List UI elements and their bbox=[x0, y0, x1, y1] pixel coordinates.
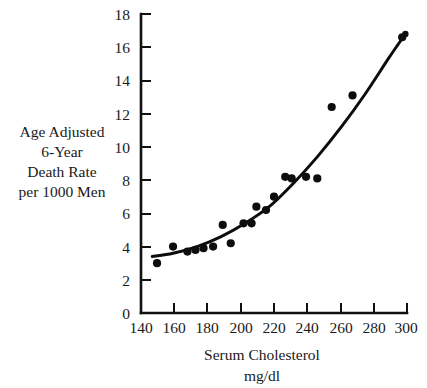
y-axis-label-line-4: per 1000 Men bbox=[19, 183, 106, 200]
y-axis-label-line-3: Death Rate bbox=[27, 163, 96, 180]
x-tick-labels: 140 160 180 200 220 240 260 280 300 bbox=[129, 319, 418, 336]
x-axis-units-text: mg/dl bbox=[244, 367, 280, 384]
x-tick-label-260: 260 bbox=[329, 319, 353, 336]
x-tick-label-160: 160 bbox=[162, 319, 186, 336]
x-tick-label-240: 240 bbox=[295, 319, 319, 336]
y-tick-labels: 0 2 4 6 8 10 12 14 16 18 bbox=[115, 6, 131, 322]
x-tick-label-220: 220 bbox=[262, 319, 286, 336]
data-point bbox=[219, 221, 227, 229]
x-tick-label-200: 200 bbox=[229, 319, 253, 336]
data-point bbox=[227, 239, 235, 247]
axes bbox=[141, 14, 407, 313]
data-point bbox=[169, 242, 177, 250]
data-point bbox=[328, 103, 336, 111]
data-point bbox=[199, 244, 207, 252]
y-tick-label-14: 14 bbox=[115, 72, 131, 89]
data-point bbox=[252, 203, 260, 211]
fitted-curve bbox=[152, 34, 405, 257]
y-axis-label-line-1: Age Adjusted bbox=[20, 123, 105, 140]
plot-data-layer bbox=[152, 31, 408, 268]
y-tick-label-2: 2 bbox=[122, 272, 130, 289]
data-point bbox=[262, 206, 270, 214]
y-axis-label: Age Adjusted 6-Year Death Rate per 1000 … bbox=[19, 123, 106, 200]
y-tick-label-10: 10 bbox=[115, 139, 131, 156]
data-point bbox=[288, 174, 296, 182]
y-tick-label-8: 8 bbox=[122, 172, 130, 189]
y-tick-label-6: 6 bbox=[122, 205, 130, 222]
y-axis-label-line-2: 6-Year bbox=[41, 143, 83, 160]
data-point bbox=[398, 33, 406, 41]
data-point bbox=[209, 242, 217, 250]
data-point bbox=[302, 173, 310, 181]
data-point bbox=[153, 259, 161, 267]
data-point bbox=[191, 246, 199, 254]
x-tick-label-280: 280 bbox=[362, 319, 386, 336]
chart-figure: Age Adjusted 6-Year Death Rate per 1000 … bbox=[0, 0, 427, 388]
data-point bbox=[348, 91, 356, 99]
x-axis-ticks bbox=[141, 303, 407, 313]
x-axis-title: Serum Cholesterol mg/dl bbox=[204, 346, 320, 384]
x-tick-label-140: 140 bbox=[129, 319, 153, 336]
y-axis-ticks bbox=[141, 14, 151, 280]
x-tick-label-180: 180 bbox=[195, 319, 219, 336]
y-tick-label-4: 4 bbox=[122, 239, 130, 256]
x-tick-label-300: 300 bbox=[394, 319, 418, 336]
data-point bbox=[270, 193, 278, 201]
scatter-plot-svg: Age Adjusted 6-Year Death Rate per 1000 … bbox=[0, 0, 427, 388]
y-tick-label-12: 12 bbox=[115, 106, 131, 123]
x-axis-title-text: Serum Cholesterol bbox=[204, 346, 320, 363]
y-tick-label-18: 18 bbox=[115, 6, 131, 23]
y-tick-label-16: 16 bbox=[115, 39, 131, 56]
data-point bbox=[247, 219, 255, 227]
data-point bbox=[239, 219, 247, 227]
data-point bbox=[313, 174, 321, 182]
data-point bbox=[183, 247, 191, 255]
